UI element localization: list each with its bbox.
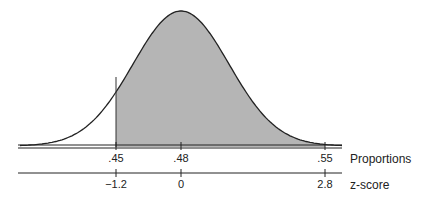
zscore-axis-label: z-score: [350, 178, 390, 192]
z-tick-label-2: 0: [178, 178, 184, 190]
p-tick-label-2: .48: [173, 152, 188, 164]
z-tick-label-1: −1.2: [105, 178, 127, 190]
shaded-area: [116, 11, 325, 147]
z-tick-label-3: 2.8: [317, 178, 332, 190]
proportions-axis-label: Proportions: [350, 152, 411, 166]
p-tick-label-3: .55: [317, 152, 332, 164]
normal-curve-chart: .45 .48 .55 Proportions −1.2 0 2.8 z-sco…: [0, 0, 425, 202]
p-tick-label-1: .45: [108, 152, 123, 164]
